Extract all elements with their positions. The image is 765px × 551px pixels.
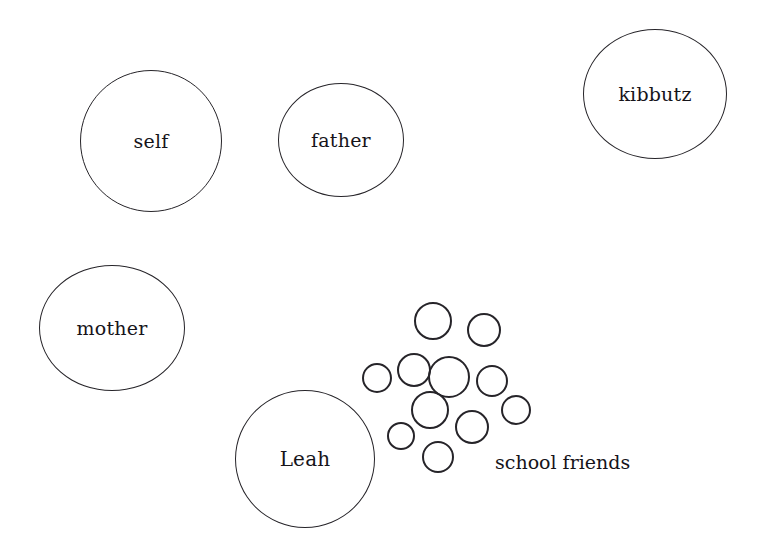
friend-circle-11[interactable] bbox=[422, 441, 454, 473]
node-kibbutz[interactable]: kibbutz bbox=[583, 29, 727, 159]
friend-circle-4[interactable] bbox=[397, 353, 431, 387]
node-father[interactable]: father bbox=[278, 83, 404, 197]
friend-circle-9[interactable] bbox=[455, 410, 489, 444]
friend-circle-10[interactable] bbox=[387, 422, 415, 450]
node-label-self: self bbox=[81, 132, 221, 151]
friend-circle-2[interactable] bbox=[467, 313, 501, 347]
friend-circle-3[interactable] bbox=[362, 363, 392, 393]
node-label-leah: Leah bbox=[236, 449, 374, 469]
node-label-father: father bbox=[279, 131, 403, 150]
school-friends-label: school friends bbox=[495, 453, 630, 472]
node-self[interactable]: self bbox=[80, 70, 222, 212]
node-label-mother: mother bbox=[40, 319, 184, 338]
node-mother[interactable]: mother bbox=[39, 265, 185, 391]
diagram-canvas: selffatherkibbutzmotherLeah school frien… bbox=[0, 0, 765, 551]
node-leah[interactable]: Leah bbox=[235, 390, 375, 528]
friend-circle-8[interactable] bbox=[501, 395, 531, 425]
friend-circle-1[interactable] bbox=[414, 302, 452, 340]
node-label-kibbutz: kibbutz bbox=[584, 85, 726, 104]
friend-circle-6[interactable] bbox=[476, 365, 508, 397]
friend-circle-7[interactable] bbox=[411, 391, 449, 429]
